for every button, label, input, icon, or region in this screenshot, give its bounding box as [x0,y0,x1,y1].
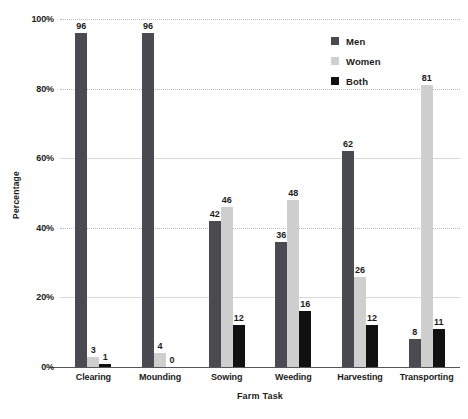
legend-item: Both [331,73,381,89]
y-axis-tick-label: 60% [2,153,54,163]
bar-value-label: 26 [355,266,365,275]
bar-men-weeding: 36 [275,242,287,367]
bar-value-label: 36 [276,231,286,240]
x-axis-tick-label: Transporting [367,372,468,382]
bar-women-transporting: 81 [421,85,433,367]
bar-value-label: 16 [300,300,310,309]
bar-value-label: 48 [288,189,298,198]
bar-group: 9631 [60,19,127,367]
legend-label: Men [346,36,365,47]
bar-both-sowing: 12 [233,325,245,367]
bar-value-label: 4 [157,342,162,351]
bar-value-label: 1 [103,353,108,362]
bar-value-label: 96 [143,22,153,31]
bar-women-harvesting: 26 [354,277,366,367]
y-axis-tick-label: 20% [2,292,54,302]
legend-swatch-icon [331,57,339,65]
plot-area: 0%20%40%60%80%100%9631Clearing9640Moundi… [60,19,460,367]
bar-men-mounding: 96 [142,33,154,367]
bar-men-harvesting: 62 [342,151,354,367]
bar-value-label: 12 [367,314,377,323]
bar-both-harvesting: 12 [366,325,378,367]
bar-value-label: 62 [343,140,353,149]
bar-group: 9640 [127,19,194,367]
y-axis-tick-label: 80% [2,84,54,94]
x-axis-line [50,367,460,368]
bar-men-transporting: 8 [409,339,421,367]
y-axis-tick-label: 100% [2,14,54,24]
bar-value-label: 81 [422,74,432,83]
y-axis-tick-label: 40% [2,223,54,233]
bar-value-label: 12 [234,314,244,323]
bar-value-label: 0 [169,356,174,365]
bar-value-label: 46 [222,196,232,205]
legend-item: Men [331,33,381,49]
bar-both-transporting: 11 [433,329,445,367]
x-axis-title: Farm Task [60,391,460,401]
bar-group: 424612 [193,19,260,367]
legend-label: Women [346,56,381,67]
legend-swatch-icon [331,37,339,45]
legend-label: Both [346,76,368,87]
bar-women-mounding: 4 [154,353,166,367]
legend-swatch-icon [331,77,339,85]
bar-women-weeding: 48 [287,200,299,367]
bar-men-clearing: 96 [75,33,87,367]
bar-both-weeding: 16 [299,311,311,367]
bar-group: 88111 [393,19,460,367]
bar-women-clearing: 3 [87,357,99,367]
legend-item: Women [331,53,381,69]
bar-men-sowing: 42 [209,221,221,367]
bar-women-sowing: 46 [221,207,233,367]
bar-value-label: 96 [76,22,86,31]
bar-value-label: 8 [412,328,417,337]
bar-group: 364816 [260,19,327,367]
bar-chart: Percentage 0%20%40%60%80%100%9631Clearin… [0,0,468,419]
y-axis-tick-label: 0% [2,362,54,372]
bar-value-label: 11 [434,318,444,327]
bar-value-label: 42 [210,210,220,219]
bar-both-clearing: 1 [99,364,111,367]
chart-legend: MenWomenBoth [331,33,381,93]
bar-value-label: 3 [91,346,96,355]
